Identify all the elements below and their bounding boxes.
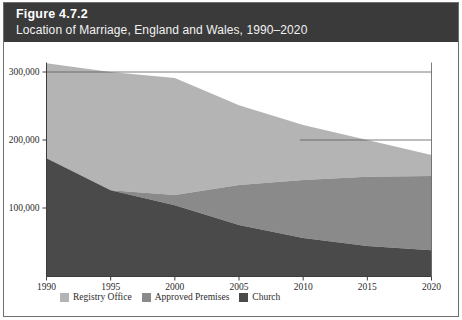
x-tick-label: 2020 — [422, 282, 441, 292]
legend-label-registry-office: Registry Office — [73, 292, 132, 303]
y-tick-label: 200,000 — [9, 135, 40, 145]
y-tick-label: 300,000 — [9, 67, 40, 77]
x-tick-label: 2005 — [230, 282, 249, 292]
chart-area: 100,000200,000300,000 199019952000200520… — [0, 0, 462, 320]
x-axis: 1990199520002005201020152020 — [37, 277, 441, 293]
x-tick-label: 1995 — [101, 282, 120, 292]
legend-swatch-church — [239, 293, 248, 302]
x-tick-label: 2015 — [358, 282, 377, 292]
y-tick-label: 100,000 — [9, 203, 40, 213]
legend-swatch-approved-premises — [142, 293, 151, 302]
stacked-area-chart: 100,000200,000300,000 199019952000200520… — [0, 0, 462, 320]
legend-item-approved-premises: Approved Premises — [142, 292, 230, 303]
legend-swatch-registry-office — [60, 293, 69, 302]
legend-item-registry-office: Registry Office — [60, 292, 132, 303]
y-axis: 100,000200,000300,000 — [9, 67, 47, 213]
legend-item-church: Church — [239, 292, 280, 303]
legend-label-church: Church — [252, 292, 280, 303]
figure-container: Figure 4.7.2 Location of Marriage, Engla… — [0, 0, 462, 320]
chart-legend: Registry Office Approved Premises Church — [60, 292, 280, 303]
x-tick-label: 2010 — [294, 282, 313, 292]
legend-label-approved-premises: Approved Premises — [155, 292, 230, 303]
x-tick-label: 2000 — [165, 282, 184, 292]
x-tick-label: 1990 — [37, 282, 56, 292]
